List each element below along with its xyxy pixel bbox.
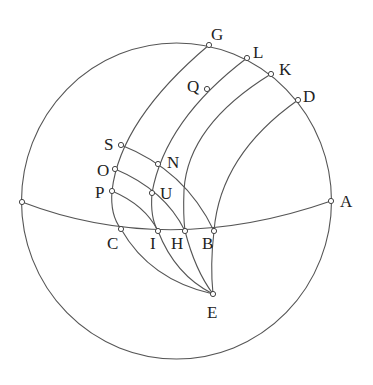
point-q-marker bbox=[204, 86, 209, 91]
equator-curve bbox=[22, 201, 331, 230]
label-d: D bbox=[303, 87, 315, 106]
label-h: H bbox=[171, 234, 183, 253]
point-h-marker bbox=[182, 228, 187, 233]
label-o: O bbox=[97, 161, 109, 180]
label-b: B bbox=[202, 234, 213, 253]
label-l: L bbox=[253, 43, 263, 62]
point-b-marker bbox=[211, 228, 216, 233]
point-c-marker bbox=[118, 226, 123, 231]
label-u: U bbox=[160, 184, 172, 203]
sphere-figure: ABCDEGHIKLNOPQSU bbox=[0, 0, 373, 385]
arc-K-H-curve bbox=[184, 74, 271, 231]
label-a: A bbox=[340, 192, 353, 211]
label-p: P bbox=[95, 183, 104, 202]
label-s: S bbox=[104, 135, 113, 154]
point-e-marker bbox=[210, 291, 215, 296]
point-k-marker bbox=[268, 71, 273, 76]
label-q: Q bbox=[187, 77, 199, 96]
point-d-marker bbox=[295, 97, 300, 102]
label-g: G bbox=[211, 25, 223, 44]
sphere-outline bbox=[22, 43, 332, 359]
label-c: C bbox=[107, 234, 118, 253]
point-o-marker bbox=[112, 166, 117, 171]
point-s-marker bbox=[118, 142, 123, 147]
arc-P-I-curve bbox=[112, 191, 158, 231]
point-u-marker bbox=[149, 190, 154, 195]
label-i: I bbox=[150, 234, 156, 253]
point-a-marker bbox=[328, 198, 333, 203]
point-i-marker bbox=[155, 228, 160, 233]
label-group: ABCDEGHIKLNOPQSU bbox=[95, 25, 353, 322]
point-w-marker bbox=[19, 199, 24, 204]
label-k: K bbox=[279, 60, 292, 79]
arc-C-E-curve bbox=[121, 229, 213, 294]
label-e: E bbox=[207, 303, 217, 322]
label-n: N bbox=[167, 153, 179, 172]
arc-D-B-curve bbox=[214, 100, 298, 231]
diagram-canvas: ABCDEGHIKLNOPQSU bbox=[0, 0, 373, 385]
point-l-marker bbox=[244, 55, 249, 60]
point-p-marker bbox=[109, 188, 114, 193]
arc-O-H-curve bbox=[115, 169, 185, 231]
point-n-marker bbox=[155, 161, 160, 166]
